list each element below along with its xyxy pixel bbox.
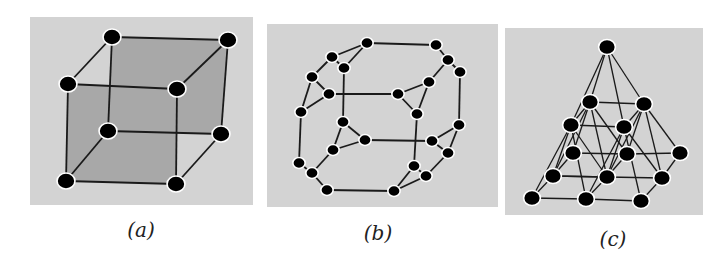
graph-node — [420, 171, 432, 182]
panel-a-cube-graph — [30, 17, 253, 205]
graph-node — [636, 97, 653, 112]
graph-node — [654, 171, 671, 186]
panel-a-caption: (a) — [127, 218, 155, 242]
graph-node — [338, 63, 350, 74]
graph-node — [59, 76, 77, 92]
graph-node — [103, 29, 121, 45]
graph-node — [599, 40, 616, 55]
graph-node — [633, 194, 650, 209]
graph-node — [578, 192, 595, 207]
graph-node — [423, 77, 435, 88]
graph-node — [167, 176, 185, 192]
graph-node — [388, 186, 400, 197]
graph-node — [408, 161, 420, 172]
graph-node — [323, 89, 335, 100]
graph-node — [327, 145, 339, 156]
graph-node — [524, 191, 541, 206]
panel-b-truncated-cube-graph — [267, 24, 498, 207]
panel-c-pyramid-graph — [505, 28, 703, 215]
graph-node — [295, 107, 307, 118]
graph-edge — [365, 140, 432, 141]
graph-node — [321, 185, 333, 196]
graph-node — [565, 146, 582, 161]
graph-node — [582, 95, 599, 110]
graph-node — [326, 52, 338, 63]
graph-node — [306, 168, 318, 179]
graph-node — [411, 109, 423, 120]
graph-node — [545, 169, 562, 184]
graph-node — [392, 89, 404, 100]
graph-edge — [343, 68, 344, 122]
graph-node — [430, 40, 442, 51]
graph-node — [219, 32, 237, 48]
graph-node — [453, 120, 465, 131]
graph-node — [442, 55, 454, 66]
graph-node — [359, 135, 371, 146]
graph-node — [442, 148, 454, 159]
graph-node — [563, 118, 580, 133]
graph-node — [672, 146, 689, 161]
graph-node — [168, 81, 186, 97]
graph-edge — [327, 190, 394, 191]
graph-edge — [459, 72, 460, 125]
graph-node — [599, 170, 616, 185]
graph-node — [426, 136, 438, 147]
graph-node — [361, 38, 373, 49]
graph-node — [619, 147, 636, 162]
graph-node — [99, 123, 117, 139]
graph-node — [616, 120, 633, 135]
graph-node — [306, 72, 318, 83]
panel-b-caption: (b) — [364, 221, 392, 245]
graph-node — [293, 158, 305, 169]
panel-c-caption: (c) — [600, 227, 627, 251]
shaded-face — [66, 84, 177, 184]
graph-node — [454, 67, 466, 78]
graph-node — [212, 126, 230, 142]
graph-node — [57, 173, 75, 189]
graph-edge — [176, 89, 177, 184]
graph-node — [337, 117, 349, 128]
figure-canvas: (a) (b) (c) — [0, 0, 727, 268]
